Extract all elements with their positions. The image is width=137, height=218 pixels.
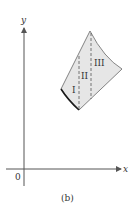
- figure-caption: (b): [61, 193, 74, 203]
- region-label-1: I: [72, 85, 76, 95]
- y-axis-label: y: [20, 15, 27, 25]
- region-label-3: III: [94, 58, 105, 68]
- origin-label: 0: [15, 172, 21, 182]
- region-label-2: II: [81, 71, 89, 81]
- x-axis-label: x: [123, 164, 128, 174]
- region-shape: [61, 31, 122, 110]
- diagram-canvas: I II III y x 0 (b): [0, 0, 137, 218]
